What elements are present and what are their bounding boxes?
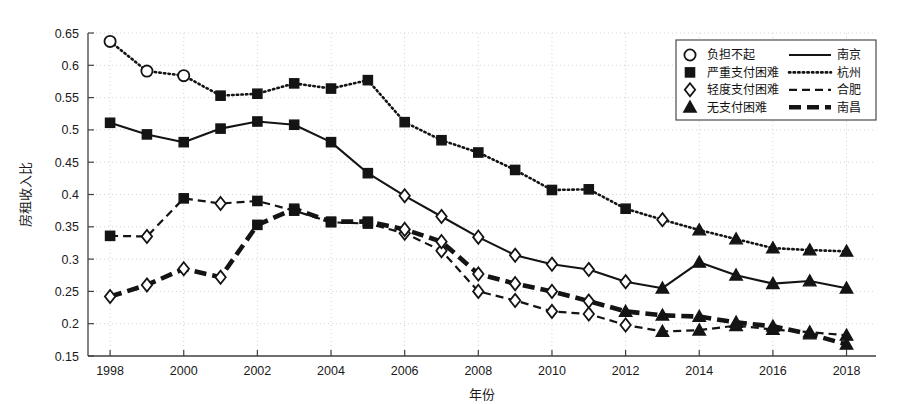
data-point-0-2 xyxy=(179,138,188,147)
data-point-2-0 xyxy=(105,231,114,240)
data-point-2-3 xyxy=(215,197,225,210)
x-axis-title: 年份 xyxy=(469,387,495,402)
x-tick-label: 2006 xyxy=(391,364,419,378)
data-point-0-5 xyxy=(290,120,299,129)
data-point-1-8 xyxy=(400,118,409,127)
y-tick-label: 0.6 xyxy=(62,59,79,73)
data-point-3-3 xyxy=(215,271,225,284)
data-point-0-1 xyxy=(142,130,151,139)
x-tick-label: 2010 xyxy=(538,364,566,378)
legend-marker-label-3: 无支付困难 xyxy=(707,101,767,115)
data-point-0-9 xyxy=(436,210,446,223)
data-point-0-6 xyxy=(326,138,335,147)
data-point-0-0 xyxy=(105,118,114,127)
data-point-1-3 xyxy=(216,91,225,100)
x-tick-label: 2000 xyxy=(170,364,198,378)
data-point-3-1 xyxy=(142,278,152,291)
data-point-1-11 xyxy=(511,165,520,174)
x-tick-label: 2018 xyxy=(833,364,861,378)
y-tick-label: 0.4 xyxy=(62,188,79,202)
data-point-1-12 xyxy=(547,185,556,194)
data-point-1-6 xyxy=(326,84,335,93)
y-tick-label: 0.2 xyxy=(62,317,79,331)
data-point-3-0 xyxy=(105,290,115,303)
data-point-1-15 xyxy=(657,213,667,226)
data-point-0-12 xyxy=(547,258,557,271)
y-tick-label: 0.3 xyxy=(62,253,79,267)
data-point-3-12 xyxy=(547,285,557,298)
legend-marker-circle xyxy=(684,49,695,60)
y-tick-label: 0.5 xyxy=(62,123,79,137)
data-point-1-7 xyxy=(363,76,372,85)
data-point-1-1 xyxy=(141,66,152,77)
data-point-3-2 xyxy=(179,262,189,275)
data-point-3-4 xyxy=(253,220,262,229)
data-point-1-4 xyxy=(253,89,262,98)
data-point-1-10 xyxy=(474,148,483,157)
data-point-2-14 xyxy=(620,318,630,331)
data-point-0-16 xyxy=(693,256,705,267)
data-point-2-2 xyxy=(179,194,188,203)
y-tick-label: 0.45 xyxy=(55,156,79,170)
y-tick-label: 0.15 xyxy=(55,350,79,364)
data-point-0-3 xyxy=(216,124,225,133)
x-tick-label: 1998 xyxy=(96,364,124,378)
data-point-2-13 xyxy=(584,307,594,320)
data-point-0-10 xyxy=(473,231,483,244)
data-point-0-4 xyxy=(253,117,262,126)
data-point-1-0 xyxy=(104,36,115,47)
x-tick-label: 2012 xyxy=(612,364,640,378)
data-point-3-13 xyxy=(584,294,594,307)
legend: 负担不起严重支付困难轻度支付困难无支付困难南京杭州合肥南昌 xyxy=(676,40,876,120)
y-tick-label: 0.65 xyxy=(55,27,79,41)
data-point-1-5 xyxy=(290,79,299,88)
data-point-1-9 xyxy=(437,136,446,145)
data-point-3-6 xyxy=(326,217,335,226)
data-point-1-14 xyxy=(621,204,630,213)
legend-marker-label-1: 严重支付困难 xyxy=(707,66,779,80)
x-tick-label: 2004 xyxy=(317,364,345,378)
data-point-2-11 xyxy=(510,294,520,307)
x-tick-label: 2016 xyxy=(759,364,787,378)
y-axis-title: 房租收入比 xyxy=(18,162,33,227)
legend-line-label-2: 合肥 xyxy=(837,82,861,97)
legend-marker-square xyxy=(685,68,694,77)
x-tick-label: 2002 xyxy=(243,364,271,378)
y-tick-label: 0.25 xyxy=(55,285,79,299)
data-point-0-11 xyxy=(510,249,520,262)
x-axis-ticks: 1998200020022004200620082010201220142016… xyxy=(96,350,860,378)
legend-marker-label-0: 负担不起 xyxy=(707,48,755,62)
x-tick-label: 2008 xyxy=(464,364,492,378)
data-point-0-8 xyxy=(399,189,409,202)
data-point-0-7 xyxy=(363,169,372,178)
data-point-2-12 xyxy=(547,305,557,318)
data-point-1-13 xyxy=(584,185,593,194)
x-tick-label: 2014 xyxy=(685,364,713,378)
rent-to-income-line-chart: 0.150.20.250.30.350.40.450.50.550.60.651… xyxy=(0,0,902,404)
data-point-3-7 xyxy=(363,217,372,226)
data-point-0-13 xyxy=(584,263,594,276)
legend-line-label-3: 南昌 xyxy=(837,100,861,115)
legend-marker-label-2: 轻度支付困难 xyxy=(707,82,779,97)
chart-figure: 0.150.20.250.30.350.40.450.50.550.60.651… xyxy=(0,0,902,404)
data-point-3-5 xyxy=(290,204,299,213)
data-point-3-11 xyxy=(510,277,520,290)
data-point-1-2 xyxy=(178,70,189,81)
data-point-0-14 xyxy=(620,275,630,288)
y-tick-label: 0.35 xyxy=(55,220,79,234)
legend-line-label-1: 杭州 xyxy=(837,65,861,80)
legend-line-label-0: 南京 xyxy=(837,47,861,62)
data-point-2-4 xyxy=(253,196,262,205)
y-tick-label: 0.55 xyxy=(55,91,79,105)
